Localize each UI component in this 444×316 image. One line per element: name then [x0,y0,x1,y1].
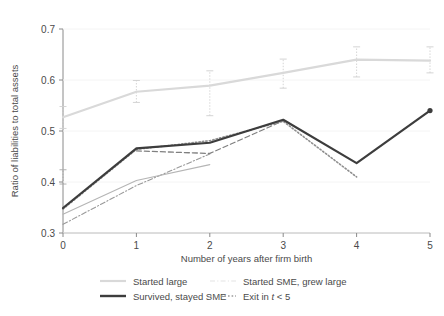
legend-label: Started large [133,276,187,287]
legend-label: Started SME, grew large [243,276,347,287]
line-chart: 0.30.40.50.60.7012345Number of years aft… [0,0,444,316]
x-tick-label: 5 [427,240,433,251]
legend-label: Exit in t < 5 [243,291,290,302]
y-tick-label: 0.6 [41,75,55,86]
chart-container: 0.30.40.50.60.7012345Number of years aft… [0,0,444,316]
series-line-started_large [63,60,430,118]
y-tick-label: 0.7 [41,24,55,35]
data-point-marker [427,108,432,113]
legend-label: Survived, stayed SME [133,291,226,302]
y-axis-title: Ratio of liabilities to total assets [9,64,20,197]
y-tick-label: 0.4 [41,177,55,188]
x-tick-label: 2 [207,240,213,251]
error-bar [206,71,213,116]
x-axis-title: Number of years after firm birth [181,253,312,264]
x-tick-label: 0 [60,240,66,251]
x-tick-label: 4 [354,240,360,251]
y-tick-label: 0.3 [41,228,55,239]
y-tick-label: 0.5 [41,126,55,137]
x-tick-label: 3 [280,240,286,251]
x-tick-label: 1 [134,240,140,251]
chart-legend: Started largeStarted SME, grew largeSurv… [100,276,347,302]
error-bar [353,47,360,77]
series-line-survived_stayed_sme [63,111,430,208]
